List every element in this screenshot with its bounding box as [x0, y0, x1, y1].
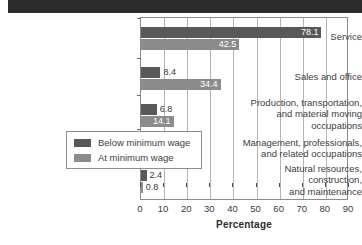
category-label-line: and maintenance — [226, 186, 362, 198]
x-axis-tick-label: 60 — [269, 203, 289, 214]
category-label-line: Natural resources, — [226, 163, 362, 175]
x-axis-tick — [186, 183, 187, 187]
bar-below-minimum-wage — [141, 67, 160, 78]
x-axis-tick-label: 90 — [338, 203, 358, 214]
category-label: Natural resources,construction,and maint… — [226, 163, 362, 198]
chart-legend: Below minimum wageAt minimum wage — [66, 131, 202, 169]
chart-screenshot: 78.142.58.434.46.814.14.58.22.40.8 01020… — [0, 0, 362, 245]
category-label-line: Production, transportation, — [226, 97, 362, 109]
category-label: Production, transportation,and material … — [226, 97, 362, 132]
category-label-line: Service — [226, 31, 362, 43]
y-axis-tick — [137, 95, 141, 96]
category-label-line: construction, — [226, 174, 362, 186]
bar-below-minimum-wage — [141, 104, 157, 115]
x-axis-tick-label: 0 — [130, 203, 150, 214]
x-axis-tick-label: 80 — [315, 203, 335, 214]
category-label-line: Management, professionals, — [226, 137, 362, 149]
x-axis-tick-label: 10 — [153, 203, 173, 214]
x-axis-tick-label: 70 — [292, 203, 312, 214]
x-axis-tick — [140, 183, 141, 187]
bar-below-minimum-wage — [141, 170, 147, 181]
y-axis-tick — [137, 58, 141, 59]
x-axis-title: Percentage — [140, 219, 348, 230]
category-label-line: occupations — [226, 120, 362, 132]
bar-value-label: 8.4 — [163, 67, 176, 78]
legend-swatch — [74, 139, 91, 147]
x-axis-tick-label: 30 — [199, 203, 219, 214]
category-label: Service — [226, 31, 362, 43]
bar-at-minimum-wage — [141, 182, 143, 193]
legend-label: At minimum wage — [98, 151, 174, 165]
x-axis-tick-label: 40 — [222, 203, 242, 214]
bar-value-label: 6.8 — [160, 104, 173, 115]
x-axis-tick — [209, 183, 210, 187]
bar-value-label: 34.4 — [141, 79, 221, 90]
y-axis-tick — [137, 18, 141, 19]
bar-value-label: 2.4 — [150, 170, 163, 181]
bar-value-label: 14.1 — [141, 116, 174, 127]
category-label-line: and related occupations — [226, 148, 362, 160]
category-label: Management, professionals,and related oc… — [226, 137, 362, 160]
category-label-line: and material moving — [226, 108, 362, 120]
category-label: Sales and office — [226, 71, 362, 83]
x-axis-tick-label: 50 — [246, 203, 266, 214]
x-axis-tick — [163, 183, 164, 187]
top-banner — [8, 0, 362, 13]
legend-label: Below minimum wage — [98, 136, 190, 150]
bar-value-label: 0.8 — [146, 182, 159, 193]
legend-swatch — [74, 154, 91, 162]
x-axis-tick-label: 20 — [176, 203, 196, 214]
category-label-line: Sales and office — [226, 71, 362, 83]
y-axis-tick — [137, 129, 141, 130]
bar-value-label: 42.5 — [141, 39, 239, 50]
